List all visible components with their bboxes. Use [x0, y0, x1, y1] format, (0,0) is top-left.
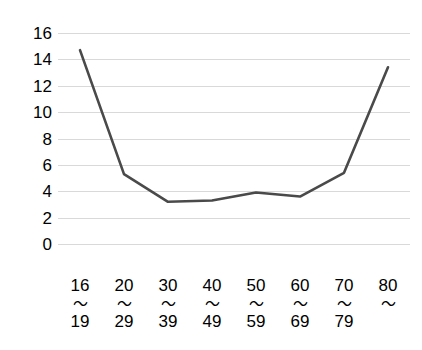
y-tick-label: 0 — [0, 236, 52, 253]
x-axis: 16〜1920〜2930〜3940〜4950〜5960〜6970〜7980〜 — [58, 276, 410, 346]
x-tick-range-separator: 〜 — [358, 296, 418, 312]
y-tick-label: 2 — [0, 209, 52, 226]
series-polyline — [80, 50, 388, 202]
y-tick-label: 14 — [0, 51, 52, 68]
plot-area — [58, 33, 410, 244]
x-tick-range-end: 79 — [314, 312, 374, 332]
y-tick-label: 8 — [0, 130, 52, 147]
x-tick-label: 80〜 — [358, 276, 418, 312]
line-chart: 1614121086420 16〜1920〜2930〜3940〜4950〜596… — [0, 0, 422, 350]
x-tick-range-start: 80 — [358, 276, 418, 296]
gridline — [58, 244, 410, 245]
y-tick-label: 6 — [0, 156, 52, 173]
y-tick-label: 12 — [0, 77, 52, 94]
series-line — [58, 33, 410, 244]
y-axis: 1614121086420 — [0, 0, 52, 350]
y-tick-label: 16 — [0, 25, 52, 42]
y-tick-label: 4 — [0, 183, 52, 200]
y-tick-label: 10 — [0, 104, 52, 121]
